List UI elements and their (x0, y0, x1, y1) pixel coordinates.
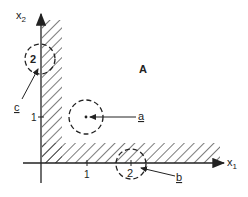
x2-axis-label: x2 (16, 9, 27, 24)
x1-axis-label: x1 (227, 156, 238, 171)
region-label-A: A (139, 63, 147, 75)
x-tick-label-2: 2 (127, 167, 133, 179)
point-a-dot (85, 116, 88, 119)
point-c-label: c (14, 101, 20, 113)
x-tick-label-1: 1 (84, 169, 90, 180)
point-c-value: 2 (30, 53, 36, 65)
point-b-pointer (141, 168, 175, 176)
hatched-region-vertical (42, 20, 62, 163)
point-a-label: a (138, 110, 145, 122)
point-b-label: b (176, 171, 182, 183)
y-tick-label-1: 1 (31, 112, 37, 123)
point-c-pointer (22, 69, 38, 99)
feasible-region-diagram: 1 2 1 x1 x2 A 2 c a b (0, 0, 248, 197)
